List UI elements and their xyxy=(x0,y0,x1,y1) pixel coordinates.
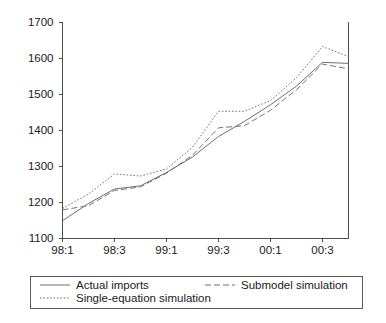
legend-label: Actual imports xyxy=(76,279,149,291)
x-axis-tick-labels: 98:198:399:199:300:100:3 xyxy=(51,244,333,256)
x-tick-label: 98:1 xyxy=(51,244,73,256)
chart-figure: 1100120013001400150016001700 98:198:399:… xyxy=(0,0,386,323)
series-lines xyxy=(63,46,349,220)
x-tick-label: 98:3 xyxy=(103,244,125,256)
series-line-single-equation-simulation xyxy=(63,46,349,208)
y-tick-label: 1400 xyxy=(28,124,54,136)
y-tick-label: 1600 xyxy=(28,52,54,64)
x-tick-label: 00:3 xyxy=(311,244,333,256)
legend-label: Single-equation simulation xyxy=(76,292,211,304)
y-axis-tick-labels: 1100120013001400150016001700 xyxy=(28,16,54,244)
x-tick-label: 00:1 xyxy=(259,244,281,256)
legend-label: Submodel simulation xyxy=(241,279,348,291)
series-line-submodel-simulation xyxy=(63,64,349,210)
y-tick-label: 1200 xyxy=(28,196,54,208)
y-tick-label: 1700 xyxy=(28,16,54,28)
x-axis-tick-marks xyxy=(63,238,323,242)
y-tick-label: 1500 xyxy=(28,88,54,100)
x-tick-label: 99:3 xyxy=(207,244,229,256)
y-axis-tick-marks xyxy=(59,22,63,238)
x-tick-label: 99:1 xyxy=(155,244,177,256)
line-chart: 1100120013001400150016001700 98:198:399:… xyxy=(0,0,386,323)
y-tick-label: 1300 xyxy=(28,160,54,172)
legend-entries: Actual importsSubmodel simulationSingle-… xyxy=(40,279,348,304)
y-tick-label: 1100 xyxy=(29,232,54,244)
